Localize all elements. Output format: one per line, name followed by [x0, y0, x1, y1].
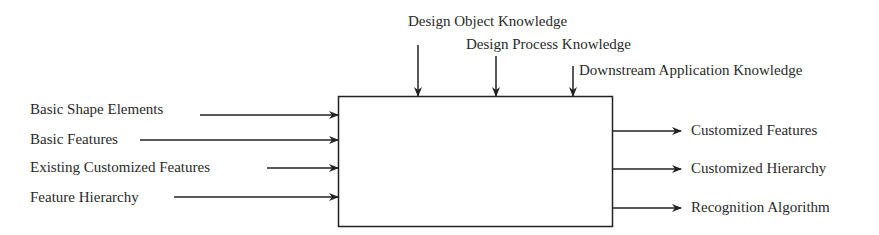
input-label-feature-hierarchy: Feature Hierarchy: [30, 190, 139, 205]
control-label-design-process: Design Process Knowledge: [466, 37, 631, 52]
control-label-downstream: Downstream Application Knowledge: [579, 63, 802, 78]
input-label-basic-features: Basic Features: [30, 132, 118, 147]
control-label-design-object: Design Object Knowledge: [408, 14, 567, 29]
function-box: [339, 97, 613, 227]
output-label-customized-hierarchy: Customized Hierarchy: [691, 161, 826, 176]
output-label-recognition-algorithm: Recognition Algorithm: [691, 200, 830, 215]
input-label-existing-customized: Existing Customized Features: [30, 160, 210, 175]
input-label-basic-shape: Basic Shape Elements: [30, 102, 163, 117]
output-label-customized-features: Customized Features: [691, 123, 817, 138]
